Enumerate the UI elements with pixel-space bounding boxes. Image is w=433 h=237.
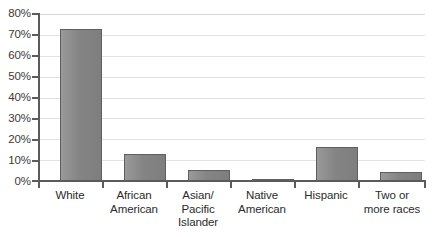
y-tick-label-0: 0% bbox=[0, 176, 31, 187]
x-label-native-american-line-1: Native bbox=[226, 189, 298, 203]
x-label-two-or-more-races-line-2: more races bbox=[354, 203, 430, 217]
gridline-80 bbox=[38, 14, 425, 15]
x-label-african-american: African American bbox=[98, 189, 170, 216]
bar-chart: 80% 70% 60% 50% 40% 30% 20% 10% 0% bbox=[0, 0, 433, 237]
x-label-two-or-more-races-line-1: Two or bbox=[354, 189, 430, 203]
x-label-hispanic-line-1: Hispanic bbox=[290, 189, 362, 203]
bar-hispanic bbox=[316, 147, 358, 181]
x-tick-mark-1 bbox=[102, 182, 104, 188]
x-tick-mark-2 bbox=[166, 182, 168, 188]
x-tick-mark-5 bbox=[358, 182, 360, 188]
x-label-asian-pacific-islander-line-1: Asian/ bbox=[162, 189, 234, 203]
y-tick-label-80: 80% bbox=[0, 8, 31, 19]
x-label-white-line-1: White bbox=[38, 189, 102, 203]
y-tick-label-30: 30% bbox=[0, 113, 31, 124]
y-tick-label-10: 10% bbox=[0, 155, 31, 166]
x-label-asian-pacific-islander: Asian/ Pacific Islander bbox=[162, 189, 234, 230]
y-axis-line bbox=[38, 13, 40, 182]
x-label-hispanic: Hispanic bbox=[290, 189, 362, 203]
x-tick-mark-4 bbox=[294, 182, 296, 188]
x-label-african-american-line-2: American bbox=[98, 203, 170, 217]
bar-white bbox=[60, 29, 102, 181]
y-tick-label-40: 40% bbox=[0, 92, 31, 103]
y-tick-label-50: 50% bbox=[0, 71, 31, 82]
x-label-asian-pacific-islander-line-2: Pacific bbox=[162, 203, 234, 217]
bar-african-american bbox=[124, 154, 166, 181]
y-tick-label-60: 60% bbox=[0, 50, 31, 61]
y-tick-label-70: 70% bbox=[0, 29, 31, 40]
y-axis-tick-labels: 80% 70% 60% 50% 40% 30% 20% 10% 0% bbox=[0, 0, 31, 237]
x-label-two-or-more-races: Two or more races bbox=[354, 189, 430, 216]
x-tick-mark-0 bbox=[38, 182, 40, 188]
x-axis-line bbox=[38, 180, 426, 182]
x-label-native-american-line-2: American bbox=[226, 203, 298, 217]
x-tick-mark-3 bbox=[230, 182, 232, 188]
x-label-african-american-line-1: African bbox=[98, 189, 170, 203]
y-tick-label-20: 20% bbox=[0, 134, 31, 145]
x-tick-mark-6 bbox=[424, 182, 426, 188]
x-label-native-american: Native American bbox=[226, 189, 298, 216]
x-label-white: White bbox=[38, 189, 102, 203]
plot-area bbox=[38, 14, 425, 181]
x-label-asian-pacific-islander-line-3: Islander bbox=[162, 216, 234, 230]
